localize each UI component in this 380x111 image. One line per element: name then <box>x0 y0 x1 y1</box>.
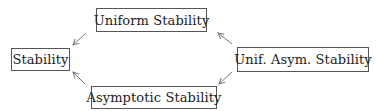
arrow-uniform-to-stability <box>73 33 86 45</box>
node-uniform-stability: Uniform Stability <box>96 8 207 32</box>
node-unif-asym-stability-label: Unif. Asym. Stability <box>234 52 371 67</box>
arrow-unif-asym-to-uniform <box>218 33 232 44</box>
node-asymptotic-stability-label: Asymptotic Stability <box>86 90 221 105</box>
node-stability: Stability <box>11 48 70 71</box>
arrow-unif-asym-to-asymptotic <box>219 72 232 84</box>
node-unif-asym-stability: Unif. Asym. Stability <box>237 47 369 72</box>
arrow-asymptotic-to-stability <box>73 72 85 84</box>
node-uniform-stability-label: Uniform Stability <box>94 13 210 28</box>
node-asymptotic-stability: Asymptotic Stability <box>91 86 217 109</box>
node-stability-label: Stability <box>12 52 68 67</box>
